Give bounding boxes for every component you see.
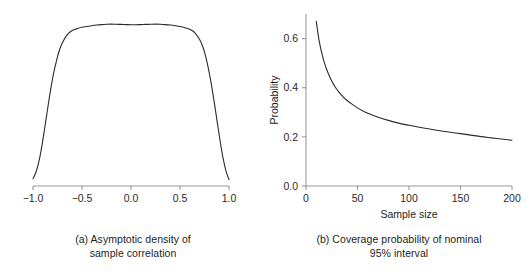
panel-b-coverage-probability: 050100150200 0.00.20.40.6 Sample size Pr…: [266, 0, 532, 280]
panel-b-caption: (b) Coverage probability of nominal 95% …: [272, 232, 526, 260]
x-tick-label: 200: [503, 192, 521, 204]
x-tick-label: 50: [352, 192, 364, 204]
panel-b-x-ticks: [306, 186, 512, 190]
x-tick-label: 0.5: [173, 192, 188, 204]
x-tick-label: 150: [452, 192, 470, 204]
coverage-curve: [316, 21, 512, 140]
panel-b-x-axis-title: Sample size: [380, 208, 437, 220]
x-tick-label: −1.0: [23, 192, 44, 204]
panel-b-plot: 050100150200 0.00.20.40.6 Sample size Pr…: [266, 0, 532, 232]
panel-a-plot: −1.0−0.50.00.51.0: [0, 0, 266, 232]
density-curve: [33, 24, 229, 179]
panel-a-asymptotic-density: −1.0−0.50.00.51.0 (a) Asymptotic density…: [0, 0, 266, 280]
panel-a-x-ticks: [33, 186, 229, 190]
x-tick-label: 0.0: [124, 192, 139, 204]
panel-b-y-tick-labels: 0.00.20.40.6: [283, 32, 298, 191]
panel-a-caption-line-1: (a) Asymptotic density of: [6, 232, 260, 246]
y-tick-label: 0.0: [283, 180, 298, 192]
x-tick-label: 1.0: [222, 192, 237, 204]
panel-b-caption-line-1: (b) Coverage probability of nominal: [272, 232, 526, 246]
x-tick-label: 0: [303, 192, 309, 204]
panel-a-caption: (a) Asymptotic density of sample correla…: [6, 232, 260, 260]
y-tick-label: 0.6: [283, 32, 298, 44]
panel-b-y-axis-title: Probability: [268, 75, 280, 125]
y-tick-label: 0.4: [283, 81, 298, 93]
x-tick-label: 100: [400, 192, 418, 204]
panel-a-x-tick-labels: −1.0−0.50.00.51.0: [23, 192, 237, 204]
figure-two-panel: −1.0−0.50.00.51.0 (a) Asymptotic density…: [0, 0, 532, 280]
panel-b-y-ticks: [302, 39, 306, 186]
panel-b-x-tick-labels: 050100150200: [303, 192, 521, 204]
y-tick-label: 0.2: [283, 131, 298, 143]
panel-b-caption-line-2: 95% interval: [272, 246, 526, 260]
x-tick-label: −0.5: [72, 192, 93, 204]
panel-a-caption-line-2: sample correlation: [6, 246, 260, 260]
